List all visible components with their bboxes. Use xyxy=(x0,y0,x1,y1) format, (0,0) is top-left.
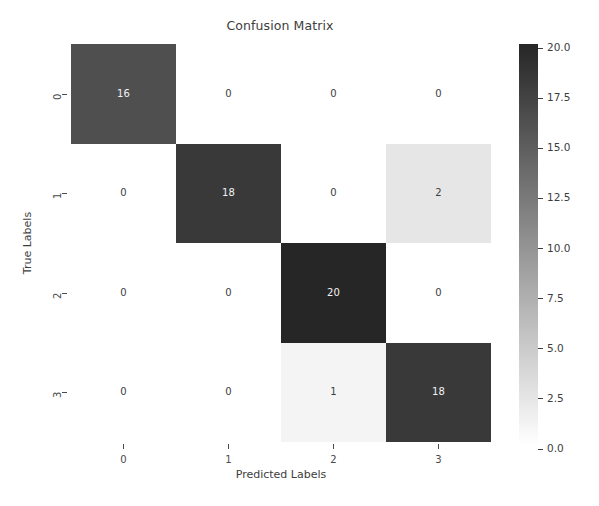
heatmap-cell: 0 xyxy=(281,144,386,244)
colorbar-tick-label: 12.5 xyxy=(547,191,570,203)
y-tick-label: 0 xyxy=(52,93,63,133)
x-tick-label: 2 xyxy=(314,454,354,465)
colorbar-tick-label: 7.5 xyxy=(547,292,564,304)
y-tick-mark xyxy=(62,293,67,294)
y-axis-ticks: 0123 xyxy=(0,44,71,442)
heatmap-cell: 16 xyxy=(71,44,176,144)
heatmap-cell: 0 xyxy=(386,44,491,144)
colorbar-tick-mark xyxy=(538,248,543,249)
heatmap-cell-value: 0 xyxy=(435,89,442,99)
colorbar-tick: 2.5 xyxy=(538,392,564,404)
colorbar-tick: 5.0 xyxy=(538,342,564,354)
heatmap-cell: 1 xyxy=(281,343,386,443)
heatmap-cell: 2 xyxy=(386,144,491,244)
heatmap-cell: 0 xyxy=(176,343,281,443)
colorbar-tick-mark xyxy=(538,449,543,450)
colorbar-tick-mark xyxy=(538,348,543,349)
colorbar-tick: 0.0 xyxy=(538,442,564,454)
heatmap-cell: 0 xyxy=(176,44,281,144)
heatmap-cell: 0 xyxy=(281,44,386,144)
x-tick-mark xyxy=(228,444,229,449)
colorbar-tick-label: 0.0 xyxy=(547,442,564,454)
y-tick-label: 3 xyxy=(52,392,63,432)
colorbar-tick-mark xyxy=(538,398,543,399)
heatmap-cell: 0 xyxy=(71,343,176,443)
heatmap-cell-value: 1 xyxy=(330,387,337,397)
heatmap-cell: 20 xyxy=(281,243,386,343)
heatmap-cell-value: 16 xyxy=(117,89,130,99)
y-tick-label: 1 xyxy=(52,193,63,233)
x-tick-label: 0 xyxy=(104,454,144,465)
heatmap-grid: 16000018020020000118 xyxy=(71,44,491,442)
heatmap-cell: 0 xyxy=(176,243,281,343)
heatmap-cell-value: 2 xyxy=(435,188,442,198)
x-tick-mark xyxy=(123,444,124,449)
page-title: Confusion Matrix xyxy=(0,18,560,33)
colorbar-tick: 7.5 xyxy=(538,292,564,304)
heatmap-cell-value: 0 xyxy=(120,288,127,298)
heatmap-cell-value: 20 xyxy=(327,288,340,298)
colorbar-tick: 12.5 xyxy=(538,191,570,203)
colorbar-tick-label: 10.0 xyxy=(547,242,570,254)
heatmap-cell: 18 xyxy=(386,343,491,443)
x-axis-label: Predicted Labels xyxy=(71,468,491,481)
colorbar-tick-mark xyxy=(538,198,543,199)
heatmap-cell: 0 xyxy=(71,144,176,244)
colorbar-tick-label: 20.0 xyxy=(547,41,570,53)
heatmap-cell-value: 0 xyxy=(120,188,127,198)
colorbar-tick-label: 15.0 xyxy=(547,141,570,153)
heatmap-cell-value: 0 xyxy=(225,288,232,298)
heatmap-cell: 0 xyxy=(386,243,491,343)
heatmap-cell-value: 0 xyxy=(330,188,337,198)
colorbar-tick-mark xyxy=(538,148,543,149)
y-axis-label: True Labels xyxy=(21,212,34,274)
x-tick-label: 3 xyxy=(419,454,459,465)
colorbar-tick-mark xyxy=(538,298,543,299)
y-tick-mark xyxy=(62,94,67,95)
x-tick-label: 1 xyxy=(209,454,249,465)
heatmap-cell-value: 0 xyxy=(225,387,232,397)
heatmap-cell-value: 0 xyxy=(120,387,127,397)
heatmap-plot-area: 16000018020020000118 xyxy=(71,44,491,442)
y-tick-label: 2 xyxy=(52,292,63,332)
colorbar-tick: 17.5 xyxy=(538,91,570,103)
colorbar-ticks: 20.017.515.012.510.07.55.02.50.0 xyxy=(519,44,599,445)
colorbar-tick: 15.0 xyxy=(538,141,570,153)
colorbar-tick-label: 2.5 xyxy=(547,392,564,404)
heatmap-cell-value: 18 xyxy=(222,188,235,198)
colorbar-tick-mark xyxy=(538,98,543,99)
y-tick-mark xyxy=(62,193,67,194)
x-tick-mark xyxy=(333,444,334,449)
x-tick-mark xyxy=(438,444,439,449)
heatmap-cell-value: 0 xyxy=(225,89,232,99)
colorbar-tick-mark xyxy=(538,48,543,49)
colorbar-tick: 20.0 xyxy=(538,41,570,53)
confusion-matrix-figure: Confusion Matrix 16000018020020000118 01… xyxy=(0,0,599,506)
colorbar-tick-label: 17.5 xyxy=(547,91,570,103)
colorbar-tick-label: 5.0 xyxy=(547,342,564,354)
colorbar-tick: 10.0 xyxy=(538,242,570,254)
heatmap-cell: 18 xyxy=(176,144,281,244)
heatmap-cell-value: 18 xyxy=(432,387,445,397)
heatmap-cell-value: 0 xyxy=(435,288,442,298)
y-tick-mark xyxy=(62,392,67,393)
heatmap-cell: 0 xyxy=(71,243,176,343)
heatmap-cell-value: 0 xyxy=(330,89,337,99)
